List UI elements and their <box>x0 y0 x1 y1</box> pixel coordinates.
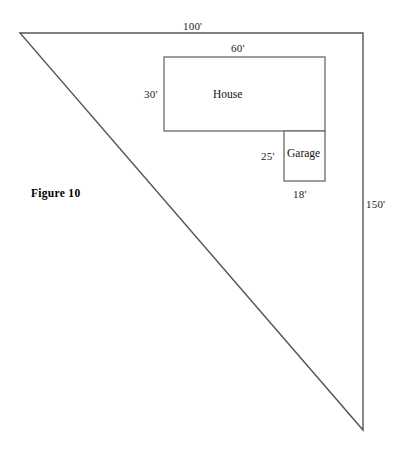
house-rectangle <box>164 57 325 131</box>
lot-right-dimension-label: 150' <box>366 198 385 210</box>
figure-diagram <box>0 0 404 454</box>
house-width-dimension-label: 60' <box>231 42 245 54</box>
house-height-dimension-label: 30' <box>144 88 158 100</box>
garage-width-dimension-label: 18' <box>293 188 307 200</box>
garage-label: Garage <box>287 147 320 160</box>
house-label: House <box>213 88 242 101</box>
lot-top-dimension-label: 100' <box>183 20 202 32</box>
figure-caption: Figure 10 <box>31 187 80 200</box>
garage-height-dimension-label: 25' <box>261 150 275 162</box>
